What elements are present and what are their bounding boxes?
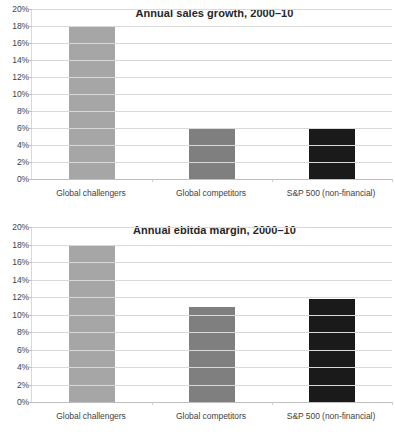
y-axis-tick-label: 20% (12, 4, 29, 14)
y-axis-tick-label: 10% (12, 310, 29, 320)
plot-area (31, 227, 392, 402)
chart-annual-sales-growth: Annual sales growth, 2000–10 0%2%4%6%8%1… (0, 0, 395, 214)
x-axis-tick-mark (392, 179, 393, 182)
y-axis-tick-label: 8% (17, 327, 29, 337)
y-axis-tick-label: 0% (17, 397, 29, 407)
gridline (32, 280, 392, 281)
x-axis-category-label: Global challengers (56, 188, 126, 198)
y-axis-tick-label: 12% (12, 72, 29, 82)
bar (189, 129, 235, 179)
gridline (32, 77, 392, 78)
plot-wrapper: 0%2%4%6%8%10%12%14%16%18%20% (0, 227, 395, 402)
gridline (32, 60, 392, 61)
x-axis-category-label: Global challengers (56, 411, 126, 421)
y-axis-tick-mark (29, 60, 32, 61)
y-axis-tick-label: 6% (17, 345, 29, 355)
y-axis-tick-mark (29, 280, 32, 281)
y-axis-tick-labels: 0%2%4%6%8%10%12%14%16%18%20% (0, 227, 29, 402)
bar (189, 307, 235, 402)
y-axis-tick-label: 12% (12, 292, 29, 302)
y-axis-tick-mark (29, 315, 32, 316)
gridline (32, 26, 392, 27)
gridline (32, 262, 392, 263)
x-axis-category-label: Global competitors (176, 188, 246, 198)
y-axis-tick-mark (29, 43, 32, 44)
gridline (32, 297, 392, 298)
gridline (32, 128, 392, 129)
y-axis-tick-mark (29, 77, 32, 78)
x-axis-tick-mark (392, 402, 393, 405)
y-axis-tick-label: 4% (17, 140, 29, 150)
gridline (32, 315, 392, 316)
y-axis-tick-label: 2% (17, 380, 29, 390)
y-axis-tick-mark (29, 128, 32, 129)
gridline (32, 350, 392, 351)
x-axis-tick-mark (272, 402, 273, 405)
x-axis-category-label: S&P 500 (non-financial) (287, 188, 375, 198)
y-axis-tick-mark (29, 145, 32, 146)
gridline (32, 94, 392, 95)
y-axis-tick-mark (29, 179, 32, 180)
y-axis-tick-label: 16% (12, 38, 29, 48)
y-axis-tick-label: 10% (12, 89, 29, 99)
y-axis-tick-label: 14% (12, 275, 29, 285)
y-axis-tick-mark (29, 26, 32, 27)
y-axis-tick-mark (29, 9, 32, 10)
y-axis-tick-mark (29, 350, 32, 351)
y-axis-tick-mark (29, 94, 32, 95)
x-axis-line (32, 179, 392, 180)
y-axis-tick-mark (29, 227, 32, 228)
gridline (32, 227, 392, 228)
x-axis-tick-mark (152, 179, 153, 182)
gridline (32, 385, 392, 386)
y-axis-tick-label: 6% (17, 123, 29, 133)
gridline (32, 332, 392, 333)
x-axis-category-label: Global competitors (176, 411, 246, 421)
y-axis-tick-label: 16% (12, 257, 29, 267)
bar (69, 26, 115, 179)
x-axis-tick-mark (152, 402, 153, 405)
y-axis-tick-mark (29, 162, 32, 163)
plot-wrapper: 0%2%4%6%8%10%12%14%16%18%20% (0, 9, 395, 179)
gridline (32, 9, 392, 10)
y-axis-tick-label: 14% (12, 55, 29, 65)
y-axis-tick-label: 8% (17, 106, 29, 116)
y-axis-tick-label: 2% (17, 157, 29, 167)
y-axis-tick-label: 18% (12, 240, 29, 250)
bar (69, 245, 115, 403)
y-axis-tick-mark (29, 245, 32, 246)
y-axis-tick-labels: 0%2%4%6%8%10%12%14%16%18%20% (0, 9, 29, 179)
gridline (32, 145, 392, 146)
y-axis-tick-mark (29, 111, 32, 112)
y-axis-tick-mark (29, 297, 32, 298)
y-axis-tick-mark (29, 385, 32, 386)
gridline (32, 43, 392, 44)
gridline (32, 245, 392, 246)
gridline (32, 111, 392, 112)
y-axis-tick-label: 4% (17, 362, 29, 372)
gridline (32, 162, 392, 163)
y-axis-tick-mark (29, 367, 32, 368)
gridline (32, 367, 392, 368)
y-axis-tick-mark (29, 262, 32, 263)
bar (309, 129, 355, 179)
y-axis-tick-label: 20% (12, 222, 29, 232)
plot-area (31, 9, 392, 179)
y-axis-tick-label: 0% (17, 174, 29, 184)
y-axis-tick-label: 18% (12, 21, 29, 31)
x-axis-line (32, 402, 392, 403)
chart-annual-ebitda-margin: Annual ebitda margin, 2000–10 0%2%4%6%8%… (0, 214, 395, 441)
y-axis-tick-mark (29, 332, 32, 333)
x-axis-tick-mark (272, 179, 273, 182)
x-axis-category-label: S&P 500 (non-financial) (287, 411, 375, 421)
y-axis-tick-mark (29, 402, 32, 403)
